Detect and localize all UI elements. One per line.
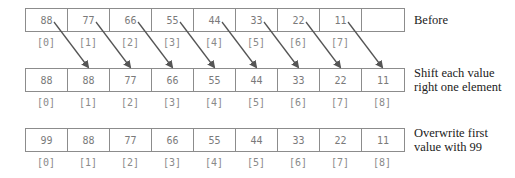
array-cell: 88	[26, 69, 68, 91]
array-cell: 66	[152, 129, 194, 151]
index-row-before: [0] [1] [2] [3] [4] [5] [6] [7]	[25, 37, 361, 48]
index-label: [7]	[319, 37, 361, 48]
array-cell: 44	[194, 9, 236, 31]
array-cell: 77	[110, 69, 152, 91]
array-cell: 33	[278, 129, 320, 151]
array-cell: 33	[278, 69, 320, 91]
array-cell: 88	[68, 129, 110, 151]
index-label: [4]	[193, 37, 235, 48]
index-label: [5]	[235, 37, 277, 48]
index-label: [4]	[193, 157, 235, 168]
array-cell: 99	[26, 129, 68, 151]
array-cell: 33	[236, 9, 278, 31]
index-label: [3]	[151, 97, 193, 108]
array-cell: 66	[110, 9, 152, 31]
index-label: [0]	[25, 37, 67, 48]
array-cell: 11	[320, 9, 362, 31]
index-label: [3]	[151, 157, 193, 168]
index-label: [1]	[67, 37, 109, 48]
index-label: [6]	[277, 37, 319, 48]
array-cell: 55	[152, 9, 194, 31]
index-label: [8]	[361, 97, 403, 108]
row-label-shift: Shift each value right one element	[414, 66, 501, 94]
label-line: Before	[414, 13, 448, 27]
row-label-before: Before	[414, 13, 448, 27]
index-label: [0]	[25, 97, 67, 108]
index-label: [2]	[109, 97, 151, 108]
array-cell: 22	[320, 129, 362, 151]
array-row-shift: 88 88 77 66 55 44 33 22 11	[25, 68, 405, 92]
index-label: [2]	[109, 37, 151, 48]
array-cell: 44	[236, 69, 278, 91]
array-cell: 88	[26, 9, 68, 31]
array-cell: 22	[278, 9, 320, 31]
index-label: [1]	[67, 97, 109, 108]
array-cell: 88	[68, 69, 110, 91]
array-cell: 22	[320, 69, 362, 91]
index-label: [5]	[235, 157, 277, 168]
label-line: value with 99	[414, 140, 488, 154]
index-label: [5]	[235, 97, 277, 108]
label-line: Shift each value	[414, 66, 501, 80]
array-row-overwrite: 99 88 77 66 55 44 33 22 11	[25, 128, 405, 152]
index-label: [6]	[277, 97, 319, 108]
index-label: [0]	[25, 157, 67, 168]
index-label: [3]	[151, 37, 193, 48]
index-label: [7]	[319, 97, 361, 108]
array-cell: 66	[152, 69, 194, 91]
row-label-overwrite: Overwrite first value with 99	[414, 126, 488, 154]
index-label: [4]	[193, 97, 235, 108]
index-label: [6]	[277, 157, 319, 168]
array-cell: 55	[194, 69, 236, 91]
index-label: [2]	[109, 157, 151, 168]
label-line: right one element	[414, 80, 501, 94]
index-label: [7]	[319, 157, 361, 168]
array-cell: 44	[236, 129, 278, 151]
array-row-before: 88 77 66 55 44 33 22 11	[25, 8, 405, 32]
index-label: [8]	[361, 157, 403, 168]
array-cell: 11	[362, 129, 404, 151]
array-cell: 11	[362, 69, 404, 91]
index-row-shift: [0] [1] [2] [3] [4] [5] [6] [7] [8]	[25, 97, 403, 108]
label-line: Overwrite first	[414, 126, 488, 140]
index-row-overwrite: [0] [1] [2] [3] [4] [5] [6] [7] [8]	[25, 157, 403, 168]
array-cell-empty	[362, 9, 404, 31]
array-cell: 77	[68, 9, 110, 31]
index-label: [1]	[67, 157, 109, 168]
array-cell: 77	[110, 129, 152, 151]
array-cell: 55	[194, 129, 236, 151]
